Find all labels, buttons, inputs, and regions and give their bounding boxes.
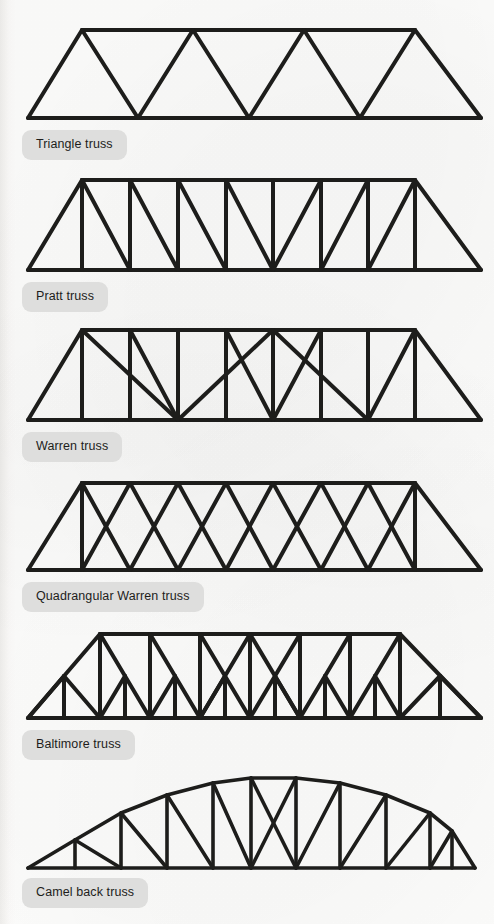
diagonal (178, 180, 226, 270)
diagonal (167, 795, 213, 868)
diagonal (415, 30, 481, 118)
sub-diagonal (64, 676, 100, 718)
sub-diagonal (440, 676, 481, 718)
figure-quadrangular-warren-truss (0, 453, 494, 582)
sub-diagonal (325, 676, 350, 718)
sub-diagonal (150, 676, 175, 718)
figure-pratt-truss (0, 150, 494, 282)
diagonal (249, 30, 304, 118)
diagonal (386, 813, 430, 868)
sub-diagonal (375, 676, 400, 718)
diagonal (226, 180, 273, 270)
end-diagonal (415, 483, 481, 570)
diagonal (340, 795, 386, 868)
warren-truss-diagram (0, 300, 494, 432)
sub-diagonal (400, 676, 440, 718)
figure-warren-truss (0, 300, 494, 432)
diagonal (75, 840, 121, 868)
sub-diagonal (100, 676, 125, 718)
diagonal (82, 30, 138, 118)
diagonal (226, 330, 273, 420)
figure-baltimore-truss (0, 604, 494, 730)
sub-diagonal (275, 676, 300, 718)
diagonal (368, 180, 415, 270)
diagonal (368, 330, 415, 420)
baltimore-truss-diagram (0, 604, 494, 730)
diagonal (130, 180, 178, 270)
end-diagonal (415, 330, 481, 420)
end-diagonal (28, 483, 82, 570)
sub-diagonal (28, 676, 64, 718)
diagonal (121, 813, 167, 868)
diagonal (213, 783, 251, 868)
diagonal (82, 180, 130, 270)
figure-camel-back-truss (0, 752, 494, 876)
diagonal (130, 330, 178, 420)
diagonal (273, 330, 321, 420)
end-diagonal (28, 180, 82, 270)
end-diagonal (415, 180, 481, 270)
diagonal (138, 30, 193, 118)
diagonal (28, 30, 82, 118)
diagonal (193, 30, 249, 118)
diagonal (321, 180, 368, 270)
caption-camel-back-truss: Camel back truss (22, 878, 148, 908)
figure-triangle-truss (0, 0, 494, 130)
pratt-truss-diagram (0, 150, 494, 282)
diagonal (430, 831, 452, 868)
sub-diagonal (200, 676, 225, 718)
diagonal (296, 783, 340, 868)
camel-back-truss-diagram (0, 752, 494, 876)
end-diagonal (28, 330, 82, 420)
diagonal (360, 30, 415, 118)
quadrangular-warren-truss-diagram (0, 453, 494, 582)
diagonal (304, 30, 360, 118)
diagonal (273, 180, 321, 270)
triangle-truss-diagram (0, 0, 494, 130)
